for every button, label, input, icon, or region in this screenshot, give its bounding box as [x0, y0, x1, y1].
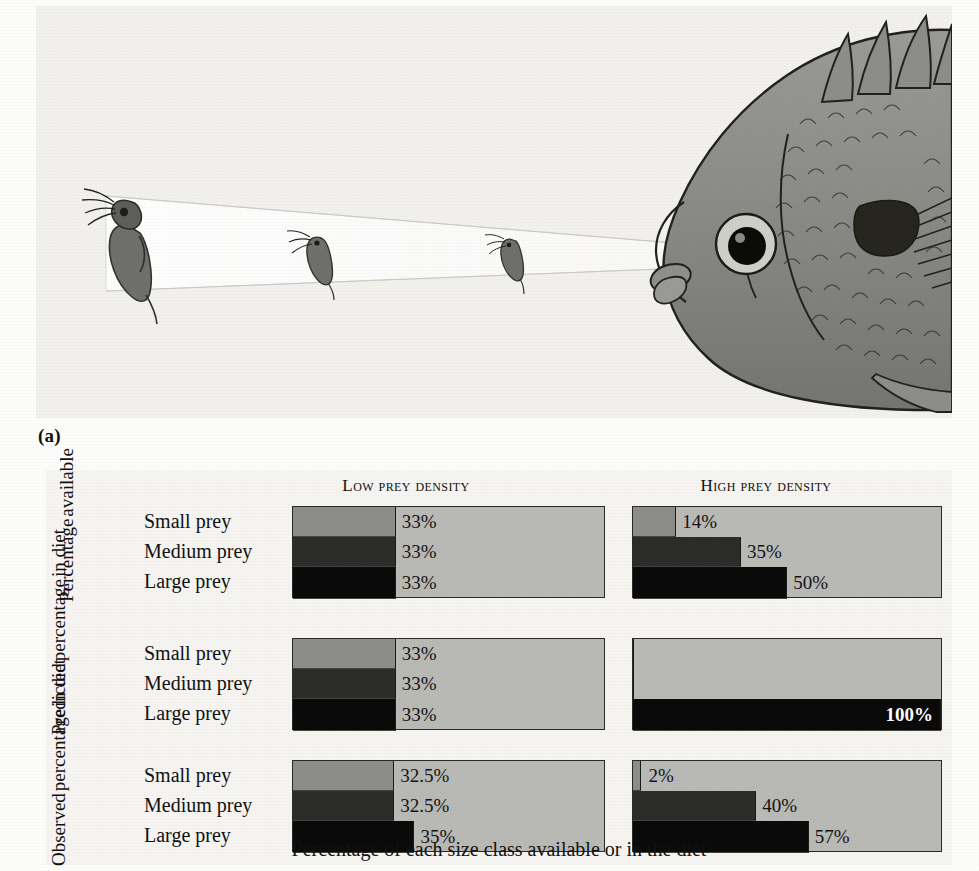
bar-label: 100%	[886, 704, 934, 726]
bar-row: 40%	[633, 791, 941, 821]
panel-a-label: (a)	[38, 425, 61, 447]
bar-label: 33%	[402, 511, 437, 533]
bar-track-predicted-high: 100%	[632, 638, 942, 730]
column-header-low-prey-density: Low prey density	[246, 476, 566, 496]
figure-root: (a) Low prey density High prey density P…	[0, 0, 979, 871]
bar-fill-large-prey	[293, 699, 396, 731]
row-name-large-prey: Large prey	[144, 566, 290, 596]
bar-fill-medium-prey	[293, 669, 396, 699]
row-name-small-prey: Small prey	[144, 506, 290, 536]
row-name-medium-prey: Medium prey	[144, 790, 290, 820]
bar-label: 33%	[402, 643, 437, 665]
illustration-panel	[36, 6, 952, 418]
bar-fill-medium-prey	[293, 537, 396, 567]
row-names-group-observed: Small prey Medium prey Large prey	[144, 760, 290, 850]
bar-label: 40%	[762, 795, 797, 817]
row-name-medium-prey: Medium prey	[144, 536, 290, 566]
bar-row: 33%	[293, 639, 604, 669]
row-name-large-prey: Large prey	[144, 698, 290, 728]
bar-label: 33%	[402, 541, 437, 563]
row-names-group-predicted: Small prey Medium prey Large prey	[144, 638, 290, 728]
bar-row: 32.5%	[293, 761, 604, 791]
bar-fill-small-prey	[633, 507, 676, 537]
bar-row: 33%	[293, 669, 604, 699]
row-name-small-prey: Small prey	[144, 760, 290, 790]
bar-label: 50%	[793, 572, 828, 594]
bar-fill-small-prey	[293, 761, 394, 791]
bar-fill-large-prey	[293, 567, 396, 599]
bar-fill-medium-prey	[633, 669, 634, 699]
bar-row: 35%	[633, 537, 941, 567]
bar-track-available-low: 33% 33% 33%	[292, 506, 605, 598]
fish-and-prey-illustration	[36, 6, 952, 418]
bar-row: 33%	[293, 699, 604, 731]
bar-track-predicted-low: 33% 33% 33%	[292, 638, 605, 730]
bar-row: 33%	[293, 537, 604, 567]
bar-row: 14%	[633, 507, 941, 537]
row-names-group-available: Small prey Medium prey Large prey	[144, 506, 290, 596]
row-name-small-prey: Small prey	[144, 638, 290, 668]
bar-fill-large-prey	[633, 567, 787, 599]
bar-label: 33%	[402, 673, 437, 695]
bar-label: 33%	[402, 572, 437, 594]
bar-fill-small-prey	[633, 639, 634, 669]
bar-label: 2%	[648, 765, 673, 787]
bar-fill-medium-prey	[633, 791, 756, 821]
bar-track-available-high: 14% 35% 50%	[632, 506, 942, 598]
bar-label: 14%	[682, 511, 717, 533]
bar-row: 50%	[633, 567, 941, 599]
column-header-high-prey-density: High prey density	[606, 476, 926, 496]
bar-fill-small-prey	[293, 507, 396, 537]
group-label-observed-percentage-in-diet: Observed percentage in diet	[48, 659, 70, 866]
fish-eye	[716, 214, 776, 274]
bar-row	[633, 639, 941, 669]
chart-panel: Low prey density High prey density Perce…	[46, 470, 952, 865]
bar-fill-medium-prey	[293, 791, 394, 821]
bar-label: 33%	[402, 704, 437, 726]
bar-row: 33%	[293, 507, 604, 537]
bar-fill-small-prey	[293, 639, 396, 669]
bar-fill-small-prey	[633, 761, 641, 791]
bar-row: 100%	[633, 699, 941, 731]
row-name-medium-prey: Medium prey	[144, 668, 290, 698]
bar-row: 33%	[293, 567, 604, 599]
bar-row	[633, 669, 941, 699]
bar-label: 35%	[747, 541, 782, 563]
x-axis-caption: Percentage of each size class available …	[46, 838, 952, 861]
bar-label: 32.5%	[400, 795, 449, 817]
bar-row: 2%	[633, 761, 941, 791]
bar-fill-medium-prey	[633, 537, 741, 567]
bar-label: 32.5%	[400, 765, 449, 787]
bar-row: 32.5%	[293, 791, 604, 821]
